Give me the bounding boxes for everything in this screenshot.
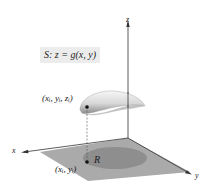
point-3d-label: (xᵢ, yᵢ, zᵢ) — [42, 94, 73, 103]
y-axis-label: y — [195, 172, 199, 180]
surface-equation-label: S: z = g(x, y) — [44, 50, 96, 60]
x-axis-label: x — [12, 147, 16, 155]
z-axis-label: z — [126, 16, 129, 24]
region-label: R — [94, 155, 100, 165]
surface-point — [85, 105, 89, 109]
3d-surface-diagram — [0, 0, 211, 183]
region-point — [85, 160, 89, 164]
point-2d-label: (xᵢ, yᵢ) — [55, 165, 76, 174]
x-axis-arrow-icon — [21, 150, 29, 153]
region-r — [83, 147, 147, 169]
